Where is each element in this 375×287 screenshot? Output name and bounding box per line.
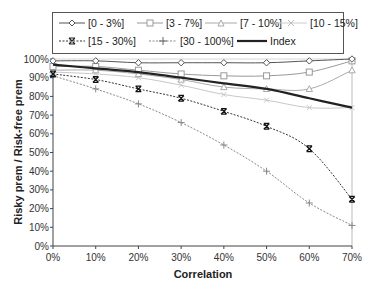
diamond-marker xyxy=(135,60,141,66)
y-tick-label: 40% xyxy=(29,166,49,177)
x-tick-label: 30% xyxy=(171,252,191,263)
diamond-marker xyxy=(178,60,184,66)
y-tick-label: 100% xyxy=(23,54,49,65)
plus-marker-icon xyxy=(149,36,177,46)
diamond-marker xyxy=(221,60,227,66)
square-marker xyxy=(306,69,312,75)
y-tick-label: 80% xyxy=(29,91,49,102)
star-x-marker xyxy=(264,124,270,130)
star-x-marker xyxy=(178,95,184,101)
square-marker-icon xyxy=(137,18,163,28)
legend-item-7-10: [7 - 10%] xyxy=(205,17,282,29)
star-x-marker xyxy=(306,146,312,152)
diamond-marker-icon xyxy=(59,18,85,28)
triangle-marker xyxy=(349,67,355,73)
y-tick-label: 30% xyxy=(29,184,49,195)
legend-item-index: Index xyxy=(237,35,296,47)
y-axis-label: Risky prem / Risk-free prem xyxy=(12,72,24,232)
star-x-marker-icon xyxy=(59,36,85,46)
x-tick-label: 0% xyxy=(46,252,61,263)
plus-marker xyxy=(263,168,270,175)
plus-marker xyxy=(349,222,356,229)
y-tick-label: 90% xyxy=(29,72,49,83)
plus-marker xyxy=(178,119,185,126)
solid-line-icon xyxy=(237,36,267,46)
chart-legend: [0 - 3%] [3 - 7%] [7 - 10%] [10 - 15%] [… xyxy=(52,12,344,54)
plus-marker xyxy=(306,199,313,206)
y-tick-label: 50% xyxy=(29,147,49,158)
legend-item-3-7: [3 - 7%] xyxy=(137,17,202,29)
legend-item-0-3: [0 - 3%] xyxy=(59,17,124,29)
y-tick-label: 60% xyxy=(29,128,49,139)
plus-marker xyxy=(135,100,142,107)
square-marker xyxy=(178,71,184,77)
square-marker xyxy=(264,73,270,79)
x-tick-label: 10% xyxy=(86,252,106,263)
series-line xyxy=(53,74,352,199)
y-tick-label: 20% xyxy=(29,203,49,214)
legend-item-30-100: [30 - 100%] xyxy=(149,35,234,47)
x-tick-label: 70% xyxy=(342,252,362,263)
legend-item-10-15: [10 - 15%] xyxy=(275,17,358,29)
legend-item-15-30: [15 - 30%] xyxy=(59,35,136,47)
x-marker-icon xyxy=(275,18,307,28)
x-tick-label: 20% xyxy=(128,252,148,263)
y-tick-label: 70% xyxy=(29,110,49,121)
plus-marker xyxy=(220,142,227,149)
diamond-marker xyxy=(263,60,269,66)
x-tick-label: 60% xyxy=(299,252,319,263)
star-x-marker xyxy=(221,109,227,115)
x-axis-label: Correlation xyxy=(53,268,353,280)
star-x-marker xyxy=(93,77,99,83)
x-tick-label: 40% xyxy=(214,252,234,263)
plus-marker xyxy=(92,85,99,92)
square-marker xyxy=(221,73,227,79)
triangle-marker-icon xyxy=(205,18,237,28)
y-tick-label: 10% xyxy=(29,222,49,233)
y-tick-label: 0% xyxy=(35,241,50,252)
x-tick-label: 50% xyxy=(257,252,277,263)
